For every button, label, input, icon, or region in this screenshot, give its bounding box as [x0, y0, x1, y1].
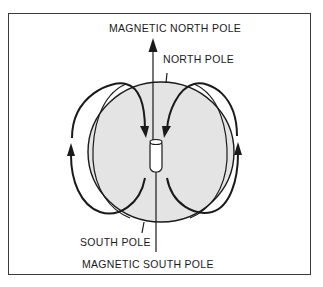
label-north-pole: NORTH POLE	[163, 53, 234, 65]
earth-magnetic-field-diagram	[0, 0, 323, 287]
bar-magnet-cylinder	[150, 140, 162, 173]
arrow-up-right-icon	[234, 142, 242, 155]
label-magnetic-north-pole: MAGNETIC NORTH POLE	[109, 22, 241, 34]
label-south-pole: SOUTH POLE	[80, 236, 151, 248]
label-magnetic-south-pole: MAGNETIC SOUTH POLE	[82, 258, 214, 270]
magnetic-north-arrow-icon	[149, 38, 158, 52]
arrow-up-left-icon	[67, 143, 75, 156]
south-pole-leader	[142, 222, 144, 233]
